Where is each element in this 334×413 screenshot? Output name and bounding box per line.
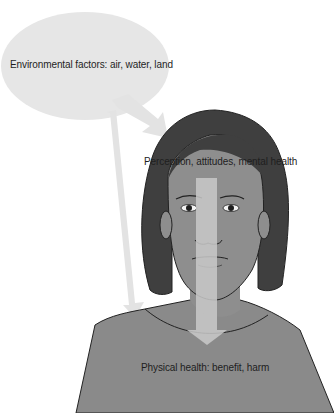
label-environmental-factors: Environmental factors: air, water, land [10,59,173,70]
label-perception: Perception, attitudes, mental health [144,156,297,167]
environment-health-diagram: Environmental factors: air, water, land … [0,0,334,413]
label-physical-health: Physical health: benefit, harm [141,362,269,373]
arrow-to-physical [106,110,144,318]
